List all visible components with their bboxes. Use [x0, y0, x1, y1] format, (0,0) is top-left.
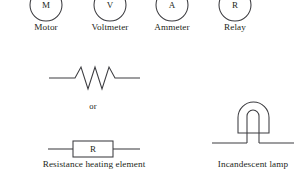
resistor-zigzag-icon [49, 67, 140, 89]
label-resistance-heating-element: Resistance heating element [43, 159, 146, 169]
relay-glyph: R [232, 0, 238, 10]
device-symbol-ammeter: A [156, 0, 188, 21]
circuit-symbols-figure: M V A R R [0, 0, 307, 183]
label-incandescent-lamp: Incandescent lamp [218, 159, 288, 169]
incandescent-lamp-symbol [212, 102, 294, 143]
resistor-box-symbol: R [48, 141, 140, 157]
label-ammeter: Ammeter [154, 22, 189, 32]
resistor-box-glyph: R [90, 144, 96, 154]
device-symbol-voltmeter: V [94, 0, 126, 21]
label-voltmeter: Voltmeter [92, 22, 129, 32]
device-symbol-relay: R [219, 0, 251, 21]
voltmeter-glyph: V [107, 0, 114, 10]
motor-glyph: M [42, 0, 50, 10]
label-relay: Relay [224, 22, 246, 32]
lamp-filament-icon [247, 110, 259, 143]
resistor-zigzag-symbol [49, 67, 140, 89]
label-motor: Motor [34, 22, 57, 32]
device-symbol-motor: M [30, 0, 62, 21]
ammeter-glyph: A [169, 0, 176, 10]
lamp-envelope-icon [238, 102, 269, 133]
label-or: or [89, 101, 96, 111]
